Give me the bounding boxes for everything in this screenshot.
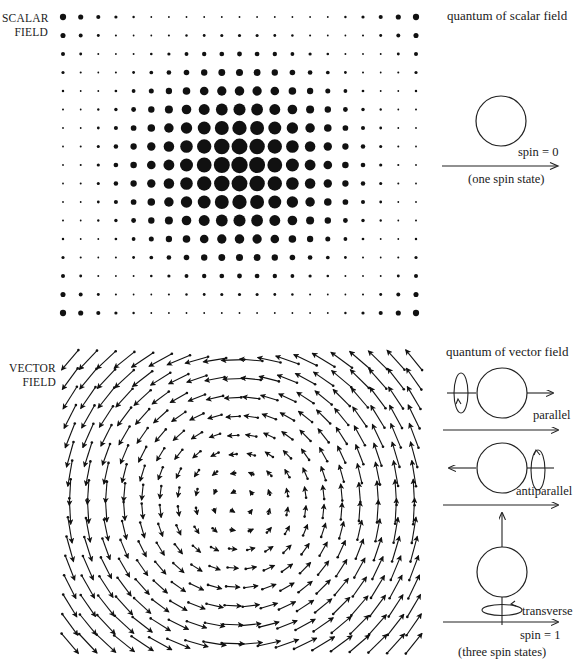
vector-arrow-tail — [249, 512, 252, 515]
vector-arrow-tail — [386, 652, 389, 655]
vector-arrow-tail — [205, 374, 208, 377]
vector-arrow-tail — [383, 427, 386, 430]
vector-arrow-tail — [347, 424, 350, 427]
vector-arrow-icon — [285, 470, 290, 478]
vector-arrow-tail — [217, 451, 220, 454]
vector-arrow-tail — [311, 649, 314, 652]
vector-arrow-tail — [276, 399, 279, 402]
vector-arrow-tail — [336, 556, 339, 559]
vector-arrow-icon — [241, 378, 261, 380]
vector-arrow-tail — [74, 422, 77, 425]
vector-arrow-icon — [154, 581, 168, 593]
vector-arrow-tail — [279, 361, 282, 364]
vector-arrow-tail — [193, 526, 196, 529]
vector-arrow-icon — [190, 413, 204, 420]
vector-arrow-icon — [178, 506, 179, 516]
vector-arrow-tail — [321, 517, 324, 520]
vector-arrow-tail — [416, 466, 419, 469]
vector-arrow-tail — [294, 629, 297, 632]
vector-arrow-icon — [160, 505, 161, 517]
vector-arrow-icon — [392, 537, 399, 562]
vector-arrow-icon — [157, 543, 165, 555]
vector-arrow-tail — [329, 422, 332, 425]
vector-arrow-icon — [388, 614, 404, 635]
vector-arrow-tail — [356, 539, 359, 542]
vector-arrow-tail — [270, 475, 273, 478]
vector-arrow-icon — [265, 547, 273, 552]
vector-arrow-tail — [330, 650, 333, 653]
vector-arrow-tail — [394, 523, 397, 526]
vector-arrow-tail — [358, 520, 361, 523]
vector-arrow-tail — [400, 446, 403, 449]
vector-arrow-tail — [222, 395, 225, 398]
vector-arrow-tail — [202, 640, 205, 643]
vector-arrow-icon — [280, 413, 294, 421]
vector-arrow-tail — [199, 450, 202, 453]
vector-arrow-tail — [148, 408, 151, 411]
vector-arrow-tail — [114, 350, 117, 353]
vector-arrow-icon — [124, 483, 126, 501]
vector-arrow-icon — [317, 410, 331, 424]
vector-arrow-tail — [369, 615, 372, 618]
vector-arrow-tail — [327, 441, 330, 444]
vector-arrow-icon — [350, 352, 370, 369]
vector-arrow-icon — [387, 634, 404, 653]
vector-arrow-icon — [118, 408, 132, 426]
vector-arrow-tail — [114, 615, 117, 618]
vector-arrow-tail — [187, 373, 190, 376]
vector-arrow-icon — [140, 466, 145, 481]
vector-arrow-tail — [130, 635, 133, 638]
vector-arrow-icon — [124, 502, 125, 520]
vector-arrow-icon — [406, 633, 422, 653]
vector-arrow-tail — [131, 616, 134, 619]
vector-arrow-icon — [339, 522, 343, 539]
vector-arrow-tail — [384, 407, 387, 410]
vector-arrow-tail — [104, 499, 107, 502]
vector-arrow-tail — [68, 497, 71, 500]
vector-arrow-icon — [332, 371, 352, 388]
vector-arrow-tail — [326, 460, 329, 463]
vector-arrow-tail — [178, 486, 181, 489]
vector-arrow-tail — [207, 355, 210, 358]
vector-arrow-tail — [273, 437, 276, 440]
vector-arrow-tail — [219, 432, 222, 435]
vector-arrow-icon — [299, 411, 313, 422]
vector-arrow-icon — [121, 445, 129, 463]
transverse-label: transverse — [522, 604, 573, 619]
vector-arrow-icon — [394, 461, 399, 486]
vector-arrow-icon — [106, 501, 107, 522]
vector-arrow-icon — [303, 468, 308, 479]
vector-arrow-tail — [291, 438, 294, 441]
vector-arrow-tail — [151, 598, 154, 601]
vector-arrow-icon — [320, 448, 328, 462]
vector-arrow-tail — [317, 573, 320, 576]
vector-arrow-icon — [79, 634, 97, 653]
vector-arrow-tail — [240, 396, 243, 399]
vector-arrow-icon — [387, 350, 404, 369]
vector-arrow-tail — [225, 585, 228, 588]
vector-arrow-icon — [258, 641, 281, 646]
vector-arrow-tail — [160, 485, 163, 488]
vector-arrow-tail — [166, 637, 169, 640]
vector-arrow-icon — [407, 387, 420, 409]
vector-arrow-tail — [186, 620, 189, 623]
vector-arrow-icon — [341, 503, 342, 520]
vector-arrow-tail — [330, 632, 333, 635]
vector-arrow-tail — [228, 547, 231, 550]
vector-arrow-icon — [321, 523, 325, 537]
vector-arrow-icon — [246, 567, 257, 569]
vector-arrow-icon — [67, 537, 74, 562]
vector-arrow-icon — [208, 585, 222, 589]
vector-arrow-tail — [146, 427, 149, 430]
vector-arrow-icon — [339, 465, 344, 482]
vector-arrow-icon — [121, 540, 129, 558]
vector-arrow-tail — [92, 422, 95, 425]
vector-arrow-tail — [390, 579, 393, 582]
vector-arrow-icon — [279, 602, 296, 610]
vector-arrow-icon — [62, 350, 79, 370]
vector-arrow-icon — [175, 450, 183, 460]
vector-arrow-icon — [142, 485, 144, 500]
vector-arrow-tail — [285, 514, 288, 517]
vector-arrow-tail — [216, 470, 219, 473]
vector-arrow-tail — [63, 574, 66, 577]
